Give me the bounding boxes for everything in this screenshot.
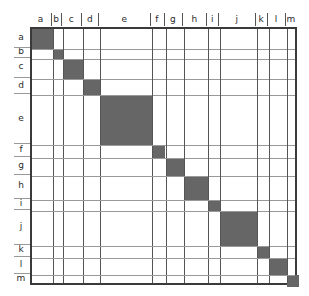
row-label-j: j: [12, 209, 30, 245]
row-label-m: m: [12, 273, 30, 285]
row-label-d: d: [12, 77, 30, 94]
column-tick-i: [206, 13, 207, 26]
row-tick-g: [14, 156, 30, 157]
column-label-j: j: [218, 12, 255, 27]
row-tick-b: [14, 47, 30, 48]
row-tick-d: [14, 77, 30, 78]
column-divider-j: [220, 29, 221, 283]
column-divider-c: [63, 29, 64, 283]
column-divider-m: [287, 29, 288, 283]
column-divider-l: [269, 29, 270, 283]
column-label-k: k: [255, 12, 267, 27]
row-tick-k: [14, 244, 30, 245]
row-divider-b: [32, 49, 295, 50]
column-label-i: i: [206, 12, 218, 27]
row-label-a: a: [12, 27, 30, 47]
column-tick-h: [182, 13, 183, 26]
column-label-d: d: [81, 12, 98, 27]
row-divider-c: [32, 59, 295, 60]
column-label-c: c: [61, 12, 81, 27]
row-label-k: k: [12, 244, 30, 256]
row-divider-m: [32, 275, 295, 276]
diagonal-block-d: [83, 79, 100, 96]
diagonal-block-k: [257, 246, 269, 258]
row-divider-d: [32, 79, 295, 80]
diagonal-block-j: [220, 211, 257, 247]
row-label-g: g: [12, 156, 30, 174]
diagonal-block-g: [166, 158, 185, 176]
column-tick-c: [61, 13, 62, 26]
diagonal-block-e: [100, 95, 152, 145]
diagonal-block-c: [63, 59, 83, 78]
row-divider-i: [32, 200, 295, 201]
column-tick-b: [51, 13, 52, 26]
column-tick-g: [164, 13, 165, 26]
row-divider-f: [32, 145, 295, 146]
column-label-l: l: [267, 12, 285, 27]
column-label-e: e: [98, 12, 150, 27]
row-tick-i: [14, 198, 30, 199]
column-divider-f: [152, 29, 153, 283]
column-label-b: b: [51, 12, 61, 27]
row-tick-f: [14, 143, 30, 144]
row-label-c: c: [12, 57, 30, 76]
row-tick-l: [14, 256, 30, 257]
row-label-i: i: [12, 198, 30, 209]
column-tick-l: [267, 13, 268, 26]
row-tick-c: [14, 57, 30, 58]
diagonal-block-l: [269, 258, 287, 275]
column-header-axis: abcdefghijklm: [30, 12, 297, 27]
row-divider-j: [32, 211, 295, 212]
column-tick-e: [98, 13, 99, 26]
row-label-f: f: [12, 143, 30, 156]
column-label-a: a: [30, 12, 51, 27]
diagonal-block-b: [53, 49, 63, 59]
column-divider-b: [53, 29, 54, 283]
row-divider-h: [32, 176, 295, 177]
column-tick-j: [218, 13, 219, 26]
block-diagonal-matrix-figure: abcdefghijklm abcdefghijklm: [0, 0, 309, 296]
diagonal-block-f: [152, 145, 165, 158]
column-label-m: m: [285, 12, 297, 27]
column-divider-e: [100, 29, 101, 283]
row-divider-l: [32, 258, 295, 259]
column-tick-d: [81, 13, 82, 26]
row-tick-m: [14, 273, 30, 274]
column-label-h: h: [182, 12, 206, 27]
column-divider-i: [208, 29, 209, 283]
diagonal-block-m: [287, 275, 299, 287]
row-divider-e: [32, 95, 295, 96]
diagonal-block-a: [32, 29, 53, 49]
column-tick-f: [150, 13, 151, 26]
row-divider-k: [32, 246, 295, 247]
column-divider-h: [184, 29, 185, 283]
row-tick-h: [14, 174, 30, 175]
row-divider-g: [32, 158, 295, 159]
row-tick-e: [14, 93, 30, 94]
matrix-grid: [30, 27, 297, 285]
row-header-axis: abcdefghijklm: [12, 27, 30, 285]
row-label-b: b: [12, 47, 30, 57]
diagonal-block-i: [208, 200, 220, 211]
row-label-e: e: [12, 93, 30, 143]
row-label-h: h: [12, 174, 30, 197]
row-tick-j: [14, 209, 30, 210]
column-label-g: g: [164, 12, 183, 27]
column-divider-k: [257, 29, 258, 283]
column-divider-d: [83, 29, 84, 283]
diagonal-block-h: [184, 176, 208, 199]
column-tick-k: [255, 13, 256, 26]
column-label-f: f: [150, 12, 163, 27]
row-label-l: l: [12, 256, 30, 273]
column-tick-m: [285, 13, 286, 26]
column-divider-g: [166, 29, 167, 283]
